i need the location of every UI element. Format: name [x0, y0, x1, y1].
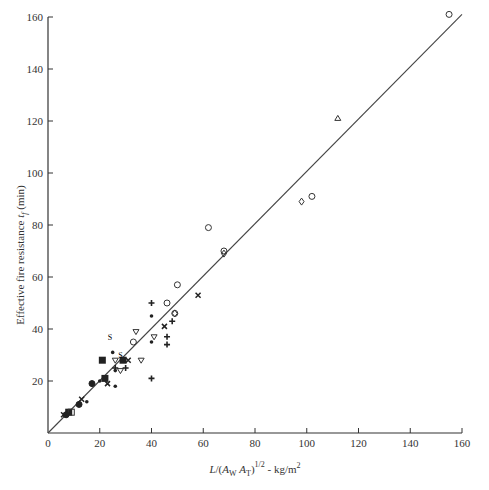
y-tick-label: 140: [27, 63, 44, 75]
inverted-triangle-marker: [133, 330, 139, 335]
triangle-marker: [335, 115, 341, 120]
x-tick-label: 60: [198, 437, 210, 449]
s-marker: S: [118, 351, 122, 360]
plus-marker: [164, 342, 170, 348]
inverted-triangle-marker: [151, 335, 157, 340]
x-tick-label: 100: [299, 437, 316, 449]
circle-marker: [164, 300, 170, 306]
x-tick-label: 40: [146, 437, 158, 449]
half-filled-marker: [89, 381, 95, 387]
dot-marker: [113, 384, 117, 388]
dot-marker: [98, 379, 102, 383]
filled-square-marker: [99, 357, 106, 364]
cross-marker: [196, 293, 201, 298]
x-axis-title: L/(AW AT)1/2 - kg/m2: [208, 460, 300, 478]
scatter-chart: 0204060801001201401602040608010012014016…: [0, 0, 489, 490]
inverted-triangle-marker: [117, 369, 123, 374]
x-tick-label: 160: [454, 437, 471, 449]
circle-marker: [309, 193, 315, 199]
circle-marker: [446, 11, 452, 17]
x-tick-label: 20: [94, 437, 106, 449]
half-filled-marker: [63, 412, 69, 418]
y-tick-label: 20: [32, 375, 44, 387]
x-tick-label: 80: [250, 437, 262, 449]
plus-marker: [149, 375, 155, 381]
y-tick-label: 60: [32, 271, 44, 283]
x-tick-label: 140: [402, 437, 419, 449]
plus-marker: [123, 365, 129, 371]
y-tick-label: 80: [32, 219, 44, 231]
plus-marker: [112, 365, 118, 371]
plus-marker: [169, 318, 175, 324]
plus-marker: [149, 300, 155, 306]
cross-marker: [162, 324, 167, 329]
filled-square-marker: [101, 375, 108, 382]
y-axis-title: Effective fire resistance tf (min): [14, 185, 29, 325]
circle-marker: [174, 282, 180, 288]
plus-marker: [164, 334, 170, 340]
dot-marker: [150, 340, 154, 344]
y-tick-label: 120: [27, 115, 44, 127]
half-filled-marker: [76, 401, 82, 407]
s-marker: S: [108, 333, 112, 342]
x-tick-label: 0: [45, 437, 51, 449]
inverted-triangle-marker: [138, 358, 144, 363]
y-tick-label: 160: [27, 11, 44, 23]
dot-marker: [85, 400, 89, 404]
fit-line: [48, 14, 462, 433]
y-tick-label: 100: [27, 167, 44, 179]
diamond-marker: [299, 198, 304, 205]
circle-marker: [130, 339, 136, 345]
dot-marker: [111, 351, 115, 355]
x-tick-label: 120: [350, 437, 367, 449]
cross-marker: [79, 397, 84, 402]
dot-marker: [150, 314, 154, 318]
circle-marker: [205, 225, 211, 231]
y-tick-label: 40: [32, 323, 44, 335]
